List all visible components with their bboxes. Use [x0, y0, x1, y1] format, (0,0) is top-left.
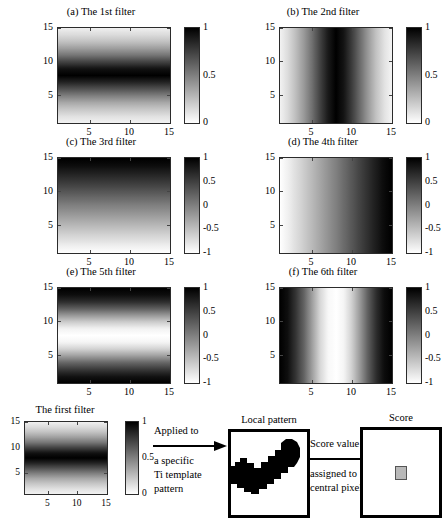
- panel-e-ytick-mark-right: [167, 288, 170, 289]
- flow-filter-heatmap: [25, 422, 107, 494]
- panel-a-heatmap: [58, 28, 170, 123]
- panel-d-ytick-mark: [280, 225, 283, 226]
- panel-d-colorbar-tick-label: -1: [425, 247, 433, 257]
- flow-filter-ytick-label: 5: [15, 467, 20, 477]
- panel-d-colorbar-tick-label: 1: [425, 152, 430, 162]
- panel-f-axes: [279, 287, 393, 384]
- flow-filter-xtick-label: 5: [45, 498, 50, 508]
- flow-filter-ytick-mark: [25, 422, 28, 423]
- panel-e-colorbar-tick-label: -0.5: [203, 353, 219, 363]
- panel-c-ytick-mark: [58, 225, 61, 226]
- flow-filter-ytick-mark: [25, 473, 28, 474]
- panel-d-ytick-mark-right: [389, 225, 392, 226]
- flow-filter-xtick-mark: [48, 491, 49, 494]
- panel-f-xtick-mark-top: [352, 288, 353, 291]
- panel-a: (a) The 1st filter 510155101510.50: [0, 6, 222, 136]
- flow-filter-ytick-mark-right: [104, 447, 107, 448]
- score-panel: Score: [358, 412, 444, 524]
- flow-filter-xtick-mark-top: [77, 422, 78, 425]
- panel-b-xtick-mark-top: [312, 28, 313, 31]
- panel-a-axes: [57, 27, 171, 124]
- panel-d-xtick-mark-top: [312, 158, 313, 161]
- panel-d-ytick-mark-right: [389, 158, 392, 159]
- panel-e-ytick-label: 10: [43, 316, 53, 326]
- panel-b-ytick-label: 10: [265, 56, 275, 66]
- flow-filter-axes: [24, 421, 108, 495]
- flow-filter-xtick-mark: [107, 491, 108, 494]
- panel-a-colorbar-tick-label: 0: [203, 117, 208, 127]
- panel-e-xtick-mark-top: [90, 288, 91, 291]
- panel-a-ytick-label: 15: [43, 22, 53, 32]
- panel-f-xtick-label: 15: [386, 387, 396, 397]
- flow-filter-colorbar-tick-label: 1: [142, 416, 147, 426]
- local-pattern-title: Local pattern: [222, 414, 316, 426]
- flow-filter-colorbar: [125, 421, 139, 495]
- flow-filter-xtick-label: 10: [72, 498, 82, 508]
- panel-d-xtick-mark: [352, 250, 353, 253]
- panel-b-xtick-mark: [352, 120, 353, 123]
- panel-a-xtick-mark: [130, 120, 131, 123]
- panel-a-ytick-mark-right: [167, 95, 170, 96]
- panel-e-title: (e) The 5th filter: [0, 266, 212, 278]
- panel-f-colorbar-tick-label: 1: [425, 282, 430, 292]
- flow-filter-xtick-label: 15: [101, 498, 111, 508]
- panel-f-xtick-mark: [312, 380, 313, 383]
- panel-f-xtick-label: 10: [346, 387, 356, 397]
- panel-f-ytick-label: 5: [270, 350, 275, 360]
- panel-c: (c) The 3rd filter 510155101510.50-0.5-1: [0, 136, 222, 266]
- panel-e-ytick-mark: [58, 288, 61, 289]
- panel-e-colorbar: [184, 287, 200, 384]
- flow-filter-ytick-mark-right: [104, 473, 107, 474]
- panel-e-ytick-mark: [58, 355, 61, 356]
- panel-e-ytick-label: 5: [48, 350, 53, 360]
- panel-e-colorbar-gradient: [185, 288, 199, 383]
- panel-b-heatmap: [280, 28, 392, 123]
- panel-a-ytick-mark: [58, 95, 61, 96]
- panel-c-ytick-mark-right: [167, 191, 170, 192]
- panel-d-ytick-label: 10: [265, 186, 275, 196]
- score-central-pixel: [395, 466, 407, 480]
- flow-filter-colorbar-tick-label: 0: [142, 488, 147, 498]
- panel-f-ytick-label: 10: [265, 316, 275, 326]
- panel-e-xtick-label: 15: [164, 387, 174, 397]
- panel-c-ytick-mark-right: [167, 225, 170, 226]
- panel-d-ytick-mark: [280, 191, 283, 192]
- panel-c-colorbar-tick-label: 0: [203, 200, 208, 210]
- panel-c-ytick-label: 5: [48, 220, 53, 230]
- panel-c-ytick-mark: [58, 158, 61, 159]
- panel-b-xtick-mark-top: [352, 28, 353, 31]
- flow-filter-ytick-label: 10: [11, 442, 21, 452]
- panel-e-ytick-label: 15: [43, 282, 53, 292]
- flow-filter-panel: The first filter 510155101510.50: [0, 404, 160, 524]
- panel-f-title: (f) The 6th filter: [212, 266, 434, 278]
- panel-a-colorbar: [184, 27, 200, 124]
- panel-f-heatmap: [280, 288, 392, 383]
- panel-d-colorbar-tick-label: -0.5: [425, 223, 441, 233]
- panel-b-ytick-mark-right: [389, 28, 392, 29]
- panel-c-colorbar-gradient: [185, 158, 199, 253]
- panel-f-ytick-mark-right: [389, 355, 392, 356]
- panel-c-axes: [57, 157, 171, 254]
- panel-d-xtick-mark-top: [352, 158, 353, 161]
- panel-b-ytick-mark: [280, 95, 283, 96]
- arrow1-line2: a specific: [154, 455, 194, 467]
- panel-b-ytick-mark-right: [389, 61, 392, 62]
- panel-f-colorbar-tick-label: -0.5: [425, 353, 441, 363]
- panel-e: (e) The 5th filter 510155101510.50-0.5-1: [0, 266, 222, 396]
- panel-b-colorbar-tick-label: 1: [425, 22, 430, 32]
- panel-c-colorbar-tick-label: -1: [203, 247, 211, 257]
- panel-f-colorbar-tick-label: 0: [425, 330, 430, 340]
- panel-f-ytick-mark-right: [389, 288, 392, 289]
- flow-filter-title: The first filter: [10, 404, 120, 416]
- panel-c-ytick-mark: [58, 191, 61, 192]
- panel-b-ytick-label: 5: [270, 90, 275, 100]
- panel-e-ytick-mark-right: [167, 321, 170, 322]
- panel-f-colorbar: [406, 287, 422, 384]
- panel-e-xtick-mark: [90, 380, 91, 383]
- panel-c-title: (c) The 3rd filter: [0, 136, 212, 148]
- panel-a-colorbar-gradient: [185, 28, 199, 123]
- panel-a-xtick-mark-top: [90, 28, 91, 31]
- panel-d-ytick-mark-right: [389, 191, 392, 192]
- panel-a-title: (a) The 1st filter: [0, 6, 212, 18]
- panel-f-xtick-label: 5: [309, 387, 314, 397]
